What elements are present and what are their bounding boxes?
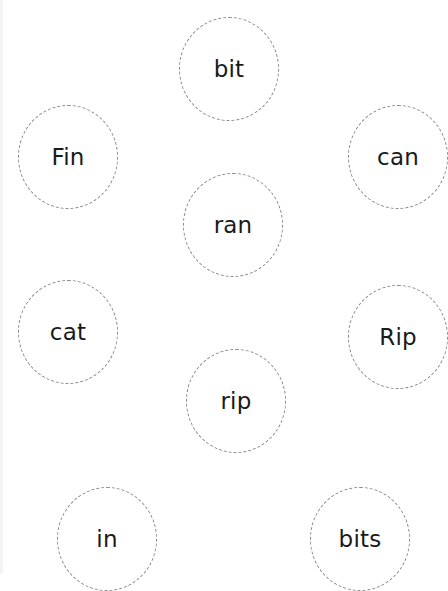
word-label: cat	[50, 319, 86, 345]
word-label: bits	[339, 526, 382, 552]
word-bubble-cat[interactable]: cat	[18, 280, 118, 384]
word-bubble-rip-capital[interactable]: Rip	[348, 285, 448, 389]
word-bubble-bit[interactable]: bit	[179, 17, 279, 121]
word-bubble-fin[interactable]: Fin	[18, 105, 118, 209]
word-label: Rip	[379, 324, 417, 350]
left-edge-strip	[0, 0, 3, 574]
word-bubble-ran[interactable]: ran	[183, 173, 283, 277]
word-bubble-can[interactable]: can	[348, 105, 448, 209]
word-bubble-in[interactable]: in	[57, 487, 157, 591]
word-label: in	[96, 526, 117, 552]
word-bubble-rip[interactable]: rip	[186, 349, 286, 453]
word-bubble-bits[interactable]: bits	[310, 487, 410, 591]
word-label: rip	[220, 388, 251, 414]
word-label: can	[377, 144, 419, 170]
word-label: ran	[214, 212, 253, 238]
word-label: Fin	[51, 144, 84, 170]
word-label: bit	[214, 56, 245, 82]
